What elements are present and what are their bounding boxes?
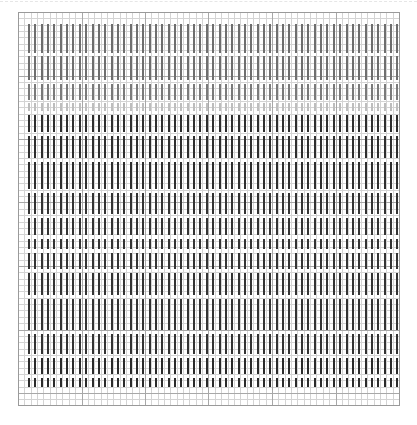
bar-segment: [396, 136, 398, 158]
bar-segment: [263, 273, 265, 295]
bar-segment: [199, 239, 201, 249]
bar-segment: [98, 56, 100, 80]
bar-segment: [384, 24, 386, 53]
bar-segment: [346, 334, 348, 354]
bar-segment: [301, 115, 303, 132]
bar-segment: [117, 378, 119, 387]
bar-segment: [174, 334, 176, 354]
bar-segment: [123, 378, 125, 387]
bar-segment: [79, 253, 81, 269]
bar-segment: [123, 136, 125, 158]
bar-segment: [390, 24, 392, 53]
bar-segment: [339, 253, 341, 269]
bar-segment: [295, 193, 297, 214]
bar-segment: [314, 334, 316, 354]
bar-segment: [104, 273, 106, 295]
bar-segment: [346, 162, 348, 189]
bar-segment: [180, 253, 182, 269]
bar-segment: [111, 253, 113, 269]
bar-segment: [130, 334, 132, 354]
bar-segment: [104, 218, 106, 235]
bar-segment: [352, 358, 354, 374]
bar-segment: [136, 358, 138, 374]
bar-segment: [168, 115, 170, 132]
bar-segment: [225, 273, 227, 295]
bar-segment: [288, 358, 290, 374]
bar-segment: [187, 239, 189, 249]
bar-segment: [231, 253, 233, 269]
bar-segment: [41, 218, 43, 235]
bar-segment: [180, 24, 182, 53]
bar-segment: [53, 299, 55, 330]
bar-segment: [130, 56, 132, 80]
bar-segment: [111, 239, 113, 249]
bar-segment: [307, 162, 309, 189]
bar-segment: [79, 334, 81, 354]
bar-segment: [149, 56, 151, 80]
bar-segment: [244, 378, 246, 387]
bar-segment: [390, 162, 392, 189]
bar-segment: [307, 56, 309, 80]
bar-segment: [282, 56, 284, 80]
bar-segment: [301, 334, 303, 354]
bar-segment: [238, 358, 240, 374]
bar-segment: [320, 24, 322, 53]
bar-segment: [295, 273, 297, 295]
bar-segment: [250, 239, 252, 249]
bar-segment: [206, 193, 208, 214]
bar-segment: [34, 115, 36, 132]
bar-segment: [333, 378, 335, 387]
bar-segment: [53, 358, 55, 374]
bar-segment: [238, 273, 240, 295]
bar-segment: [352, 193, 354, 214]
bar-segment: [161, 115, 163, 132]
bar-segment: [123, 162, 125, 189]
bar-segment: [206, 84, 208, 100]
bar-segment: [174, 358, 176, 374]
bar-segment: [231, 378, 233, 387]
bar-segment: [384, 56, 386, 80]
bar-segment: [219, 162, 221, 189]
bar-segment: [231, 193, 233, 214]
bar-segment: [320, 378, 322, 387]
bar-segment: [123, 299, 125, 330]
bar-segment: [244, 334, 246, 354]
bar-segment: [53, 378, 55, 387]
bar-segment: [212, 103, 214, 111]
bar-segment: [92, 273, 94, 295]
bar-segment: [98, 378, 100, 387]
bar-segment: [269, 273, 271, 295]
bar-segment: [263, 218, 265, 235]
bar-segment: [333, 218, 335, 235]
bar-segment: [60, 84, 62, 100]
bar-segment: [85, 273, 87, 295]
bar-segment: [263, 239, 265, 249]
bar-segment: [231, 24, 233, 53]
bar-segment: [390, 358, 392, 374]
bar-segment: [384, 378, 386, 387]
bar-segment: [98, 84, 100, 100]
bar-segment: [206, 358, 208, 374]
bar-segment: [326, 334, 328, 354]
bar-segment: [168, 84, 170, 100]
bar-segment: [180, 103, 182, 111]
bar-segment: [326, 299, 328, 330]
bar-segment: [111, 162, 113, 189]
bar-segment: [206, 56, 208, 80]
bar-segment: [371, 193, 373, 214]
bar-segment: [219, 103, 221, 111]
bar-segment: [365, 56, 367, 80]
bar-segment: [199, 56, 201, 80]
bar-segment: [212, 162, 214, 189]
bar-segment: [193, 358, 195, 374]
bar-segment: [390, 239, 392, 249]
bar-segment: [238, 218, 240, 235]
bar-segment: [295, 378, 297, 387]
bar-segment: [92, 299, 94, 330]
bar-segment: [174, 136, 176, 158]
bar-segment: [352, 84, 354, 100]
bar-segment: [66, 56, 68, 80]
bar-segment: [384, 239, 386, 249]
bar-segment: [206, 334, 208, 354]
bar-segment: [326, 24, 328, 53]
